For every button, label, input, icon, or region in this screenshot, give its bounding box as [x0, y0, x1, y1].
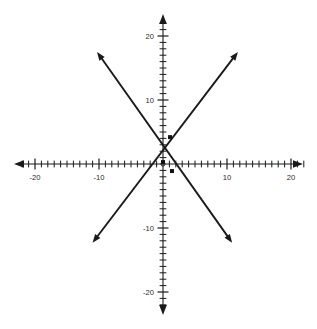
y-tick-label: -10	[143, 224, 154, 233]
y-tick-label: 20	[146, 32, 154, 41]
x-tick-labels: -20-101020	[30, 173, 296, 182]
coordinate-plane-svg: -20-101020 2010-10-20	[0, 0, 317, 329]
y-tick-label: -20	[143, 288, 154, 297]
y-axis-up-arrow-icon	[159, 14, 167, 24]
y-tick-label: 10	[146, 96, 154, 105]
x-tick-label: 20	[287, 173, 295, 182]
data-point-point-upper	[168, 135, 172, 139]
x-tick-label: -10	[94, 173, 105, 182]
y-axis-down-arrow-icon	[159, 305, 167, 315]
x-tick-label: 10	[223, 173, 231, 182]
x-tick-label: -20	[30, 173, 41, 182]
data-point-point-lower	[170, 169, 174, 173]
chart-canvas: -20-101020 2010-10-20	[0, 0, 317, 329]
x-axis-right-arrow-icon	[293, 160, 303, 168]
data-line-falling-line	[101, 57, 229, 237]
data-point-point-origin	[161, 160, 165, 164]
